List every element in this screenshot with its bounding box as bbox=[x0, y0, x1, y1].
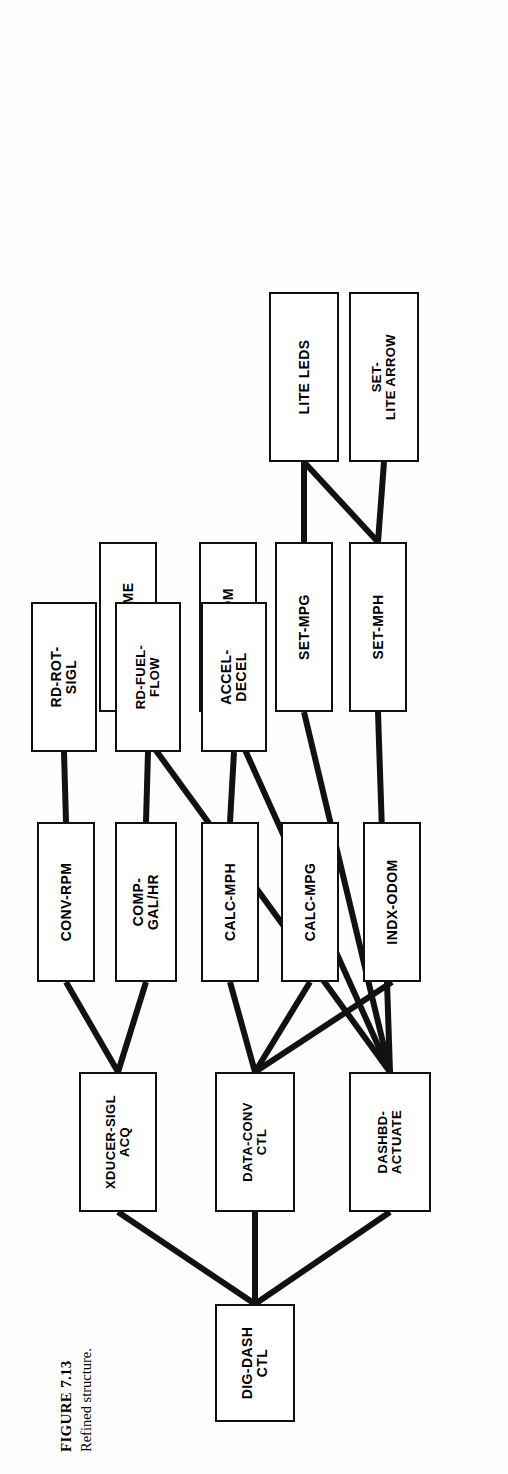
node-compgal: COMP- GAL/HR bbox=[115, 822, 177, 982]
node-rdrot: RD-ROT- SIGL bbox=[31, 602, 97, 752]
figure-caption-text: Refined structure. bbox=[78, 1152, 95, 1452]
node-liteleds: LITE LEDS bbox=[269, 292, 339, 462]
node-setmph: SET-MPH bbox=[349, 542, 407, 712]
figure-number: FIGURE 7.13 bbox=[58, 1152, 75, 1452]
node-dataconv: DATA-CONV CTL bbox=[215, 1072, 295, 1212]
edge-root-to-xducer bbox=[118, 1212, 255, 1304]
edge-compgal-to-rdfuel bbox=[146, 752, 148, 822]
edge-root-to-dashbd bbox=[255, 1212, 390, 1304]
edge-calcmph-to-acceldecel bbox=[230, 752, 234, 822]
edge-xducer-to-compgal bbox=[118, 982, 146, 1072]
figure-page: DIG-DASH CTLXDUCER-SIGL ACQDATA-CONV CTL… bbox=[0, 0, 508, 1474]
edge-dataconv-to-calcmpg bbox=[255, 982, 310, 1072]
edge-setmph-to-liteleds bbox=[304, 462, 378, 542]
node-convrpm: CONV-RPM bbox=[37, 822, 95, 982]
edge-dataconv-to-calcmph bbox=[230, 982, 255, 1072]
node-calcmpg: CALC-MPG bbox=[281, 822, 339, 982]
edge-xducer-to-convrpm bbox=[66, 982, 118, 1072]
figure-caption: FIGURE 7.13 Refined structure. bbox=[58, 1152, 95, 1452]
node-root: DIG-DASH CTL bbox=[215, 1304, 295, 1422]
node-acceldecel: ACCEL- DECEL bbox=[201, 602, 267, 752]
edge-setmph-to-setlitearrow bbox=[378, 462, 384, 542]
node-calcmph: CALC-MPH bbox=[201, 822, 259, 982]
edge-convrpm-to-rdrot bbox=[64, 752, 66, 822]
node-setmpg: SET-MPG bbox=[275, 542, 333, 712]
node-dashbd: DASHBD- ACTUATE bbox=[349, 1072, 431, 1212]
node-rdfuel: RD-FUEL- FLOW bbox=[115, 602, 181, 752]
node-indxodom: INDX-ODOM bbox=[363, 822, 421, 982]
node-setlitearrow: SET- LITE ARROW bbox=[349, 292, 419, 462]
